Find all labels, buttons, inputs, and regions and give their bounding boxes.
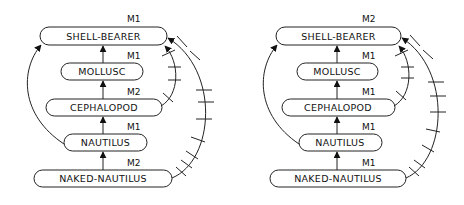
marker-label: M2 [127, 158, 141, 168]
cancel-ticks-outer [409, 35, 446, 176]
node-label: NAUTILUS [81, 137, 130, 148]
marker-label: M1 [127, 122, 141, 132]
node-label: NAKED-NAUTILUS [59, 173, 147, 184]
node-label: MOLLUSC [313, 66, 361, 77]
cancelled-edge-naked-nautilus-shell-bearer [168, 38, 206, 178]
node-label: CEPHALOPOD [304, 102, 372, 113]
node-label: SHELL-BEARER [66, 31, 141, 42]
node-label: NAUTILUS [315, 137, 364, 148]
marker-label: M1 [362, 87, 376, 97]
marker-label: M1 [127, 14, 141, 24]
marker-label: M1 [362, 122, 376, 132]
cancel-ticks-outer [176, 36, 214, 176]
node-label: MOLLUSC [78, 66, 126, 77]
marker-label: M2 [362, 14, 376, 24]
marker-label: M1 [362, 158, 376, 168]
marker-label: M2 [127, 87, 141, 97]
node-label: SHELL-BEARER [301, 31, 376, 42]
marker-label: M1 [362, 51, 376, 61]
edge-nautilus-shell-bearer [27, 45, 64, 144]
marker-label: M1 [127, 51, 141, 61]
cancel-ticks-inner [395, 50, 414, 100]
node-label: NAKED-NAUTILUS [294, 173, 382, 184]
node-label: CEPHALOPOD [70, 102, 138, 113]
edge-nautilus-shell-bearer [263, 45, 299, 144]
